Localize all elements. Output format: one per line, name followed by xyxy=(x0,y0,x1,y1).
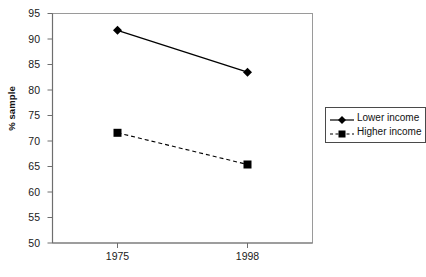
chart-legend: Lower income Higher income xyxy=(325,107,426,143)
legend-marker-square-icon xyxy=(329,126,355,138)
legend-label: Lower income xyxy=(357,112,419,124)
legend-marker-diamond-icon xyxy=(329,112,355,124)
legend-label: Higher income xyxy=(357,126,421,138)
legend-item-lower-income: Lower income xyxy=(329,111,421,125)
x-tick-label: 1975 xyxy=(106,251,129,262)
legend-item-higher-income: Higher income xyxy=(329,125,421,139)
x-tick-label: 1998 xyxy=(236,251,259,262)
